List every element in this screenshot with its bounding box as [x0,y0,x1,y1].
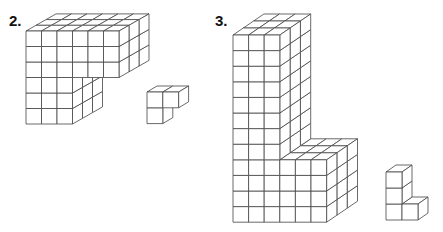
cube-front-face [264,207,280,223]
cube-front-face [233,191,249,207]
worksheet-canvas: 2. 3. [0,0,443,232]
cube-front-face [88,31,104,47]
cube-front-face [233,207,249,223]
cube-front-face [57,78,73,94]
cube-front-face [249,35,265,51]
cube-front-face [104,47,120,63]
cube-front-face [295,160,311,176]
cube-front-face [147,108,163,124]
cube-front-face [147,92,163,108]
cube-front-face [233,113,249,129]
cube-front-face [73,62,89,78]
cube-front-face [233,82,249,98]
cube-front-face [264,144,280,160]
cube-front-face [295,175,311,191]
cube-front-face [249,160,265,176]
cube-front-face [26,93,42,109]
cube-front-face [264,51,280,67]
cube-front-face [42,78,58,94]
cube-front-face [88,47,104,63]
cube-front-face [163,92,179,108]
cube-front-face [264,175,280,191]
cube-front-face [26,47,42,63]
cube-front-face [386,172,402,188]
cube-figures-drawing [0,0,443,232]
cube-front-face [57,47,73,63]
cube-front-face [26,78,42,94]
cube-front-face [249,82,265,98]
cube-front-face [311,191,327,207]
cube-front-face [42,109,58,125]
cube-front-face [42,62,58,78]
cube-front-face [295,191,311,207]
cube-front-face [233,144,249,160]
problem-3-label: 3. [215,13,228,28]
cube-front-face [88,62,104,78]
cube-front-face [311,207,327,223]
cube-front-face [42,93,58,109]
cube-front-face [249,175,265,191]
cube-front-face [249,51,265,67]
problem-3-piece [386,165,428,220]
cube-front-face [249,66,265,82]
cube-front-face [57,109,73,125]
problem-3-figure [233,14,358,222]
cube-front-face [104,31,120,47]
cube-front-face [57,62,73,78]
cube-front-face [295,207,311,223]
cube-front-face [57,93,73,109]
cube-front-face [264,66,280,82]
cube-front-face [233,35,249,51]
cube-front-face [73,47,89,63]
cube-front-face [233,51,249,67]
cube-front-face [57,31,73,47]
cube-front-face [42,31,58,47]
cube-front-face [386,204,402,220]
cube-front-face [386,188,402,204]
cube-front-face [104,62,120,78]
cube-front-face [233,129,249,145]
cube-front-face [264,97,280,113]
cube-front-face [280,191,296,207]
cube-front-face [249,191,265,207]
cube-front-face [264,129,280,145]
cube-front-face [280,175,296,191]
cube-front-face [249,144,265,160]
cube-front-face [73,31,89,47]
cube-front-face [26,31,42,47]
cube-front-face [249,97,265,113]
cube-front-face [311,175,327,191]
cube-front-face [26,62,42,78]
cube-front-face [42,47,58,63]
cube-front-face [233,175,249,191]
cube-front-face [264,191,280,207]
cube-front-face [264,35,280,51]
cube-front-face [402,204,418,220]
cube-front-face [233,160,249,176]
cube-front-face [249,113,265,129]
problem-2-figure [26,14,149,124]
cube-front-face [280,160,296,176]
problem-2-piece [147,86,189,124]
problem-2-label: 2. [9,13,22,28]
cube-front-face [26,109,42,125]
cube-front-face [264,160,280,176]
cube-front-face [280,207,296,223]
cube-front-face [264,113,280,129]
cube-front-face [233,97,249,113]
cube-front-face [249,207,265,223]
cube-front-face [264,82,280,98]
cube-front-face [233,66,249,82]
cube-front-face [249,129,265,145]
cube-front-face [311,160,327,176]
